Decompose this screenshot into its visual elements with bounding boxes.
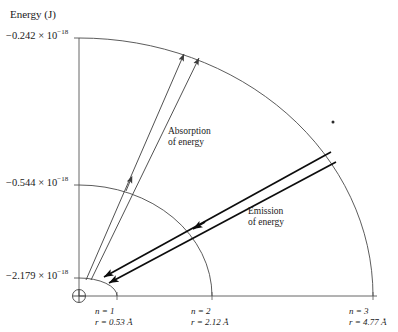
stray-dot (332, 121, 335, 124)
orbit-label-n1: n = 1 r = 0.53 Å (95, 306, 133, 329)
energy-tick-label-n2: −0.544 × 10−18 (6, 175, 68, 189)
orbit-label-n3: n = 3 r = 4.77 Å (349, 306, 387, 329)
energy-tick-label-n3: −0.242 × 10−18 (6, 28, 68, 42)
energy-tick-text-n2: −0.544 × 10 (6, 177, 57, 188)
orbit-label-n2: n = 2 r = 2.12 Å (191, 306, 229, 329)
absorption-annotation-line1: Absorption (168, 126, 211, 137)
absorption-annotation-line2: of energy (168, 137, 211, 148)
orbit-arc-n3 (79, 38, 373, 296)
emission-annotation-line1: Emission (248, 206, 284, 217)
emission-arrow-lower (109, 162, 336, 283)
energy-tick-exp-n1: −18 (57, 268, 68, 276)
emission-arrow-mid-head (193, 222, 205, 229)
emission-arrow-group (104, 152, 336, 283)
orbit-arc-n2 (79, 185, 212, 296)
orbit-label-n3-r: r = 4.77 Å (349, 317, 387, 328)
emission-arrow-upper (104, 152, 331, 277)
energy-tick-exp-n2: −18 (57, 175, 68, 183)
nucleus-icon (73, 290, 86, 303)
orbit-label-n1-n: n = 1 (95, 306, 133, 317)
energy-tick-exp-n3: −18 (57, 28, 68, 36)
absorption-arrow-group (86, 54, 199, 280)
energy-tick-text-n1: −2.179 × 10 (6, 270, 57, 281)
emission-annotation: Emission of energy (248, 206, 284, 228)
energy-axis-title: Energy (J) (10, 8, 56, 21)
bohr-energy-level-diagram (0, 0, 398, 332)
energy-tick-text-n3: −0.242 × 10 (6, 30, 57, 41)
absorption-arrow-left (86, 54, 184, 280)
absorption-arrow-right (91, 58, 199, 280)
energy-tick-label-n1: −2.179 × 10−18 (6, 268, 68, 282)
orbit-label-n2-n: n = 2 (191, 306, 229, 317)
emission-annotation-line2: of energy (248, 217, 284, 228)
orbit-label-n2-r: r = 2.12 Å (191, 317, 229, 328)
orbit-label-n3-n: n = 3 (349, 306, 387, 317)
absorption-annotation: Absorption of energy (168, 126, 211, 148)
orbit-label-n1-r: r = 0.53 Å (95, 317, 133, 328)
